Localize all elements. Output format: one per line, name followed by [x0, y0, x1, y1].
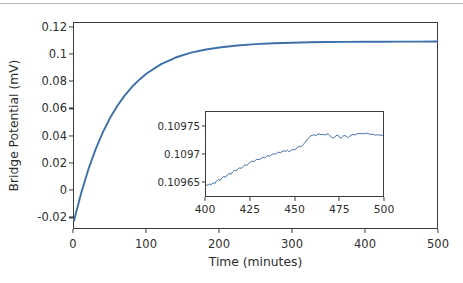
y-tick-label: 0.12	[41, 20, 67, 34]
x-tick-mark	[364, 229, 365, 233]
y-tick-label: -0.02	[37, 210, 67, 224]
y-tick-label: 0.02	[41, 156, 67, 170]
x-axis-label: Time (minutes)	[73, 255, 438, 269]
inset-x-tick-mark	[204, 197, 205, 201]
y-tick-mark	[69, 81, 73, 82]
y-tick-mark	[69, 108, 73, 109]
figure: 0100200300400500-0.0200.020.040.060.080.…	[0, 0, 463, 283]
y-tick-label: 0.08	[41, 74, 67, 88]
inset-x-tick-label: 475	[329, 203, 350, 216]
inset-y-tick-mark	[202, 153, 206, 154]
inset-plot-canvas	[206, 112, 383, 196]
y-tick-label: 0	[60, 183, 67, 197]
y-tick-label: 0.1	[49, 47, 67, 61]
y-tick-mark	[69, 162, 73, 163]
inset-x-tick-label: 450	[284, 203, 305, 216]
inset-y-tick-mark	[202, 181, 206, 182]
x-tick-mark	[218, 229, 219, 233]
x-tick-label: 200	[208, 237, 230, 251]
x-tick-label: 300	[281, 237, 303, 251]
inset-y-tick-label: 0.10965	[157, 176, 200, 188]
y-tick-mark	[69, 26, 73, 27]
y-axis-label: Bridge Potential (mV)	[6, 22, 22, 229]
inset-y-tick-label: 0.10975	[157, 120, 200, 132]
inset-x-tick-label: 400	[195, 203, 216, 216]
x-tick-mark	[145, 229, 146, 233]
inset-x-tick-label: 500	[374, 203, 395, 216]
y-tick-mark	[69, 190, 73, 191]
inset-x-tick-label: 425	[239, 203, 260, 216]
inset-plot-axes	[205, 111, 384, 197]
x-tick-label: 400	[354, 237, 376, 251]
y-tick-label: 0.06	[41, 101, 67, 115]
inset-x-tick-mark	[383, 197, 384, 201]
inset-x-tick-mark	[249, 197, 250, 201]
y-tick-mark	[69, 217, 73, 218]
x-tick-mark	[72, 229, 73, 233]
inset-x-tick-mark	[294, 197, 295, 201]
top-divider-rule	[0, 3, 463, 4]
x-tick-label: 100	[135, 237, 157, 251]
x-tick-label: 0	[69, 237, 76, 251]
inset-x-tick-mark	[339, 197, 340, 201]
inset-y-tick-mark	[202, 126, 206, 127]
y-tick-label: 0.04	[41, 129, 67, 143]
y-tick-mark	[69, 53, 73, 54]
x-tick-mark	[291, 229, 292, 233]
x-tick-label: 500	[427, 237, 449, 251]
x-tick-mark	[437, 229, 438, 233]
inset-y-tick-label: 0.1097	[164, 148, 200, 160]
y-tick-mark	[69, 135, 73, 136]
